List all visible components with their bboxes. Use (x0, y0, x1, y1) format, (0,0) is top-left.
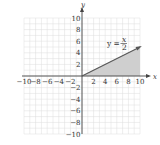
equation-denominator: 2 (122, 43, 127, 52)
y-tick-label: −8 (70, 119, 80, 127)
equation-left: y = (106, 39, 120, 48)
graph: −10−8−6−4−2246810108642−2−4−6−8−10 x y y… (0, 0, 160, 145)
y-tick-label: 10 (72, 15, 81, 23)
y-tick-label: 6 (76, 38, 81, 46)
x-tick-label: −4 (54, 78, 65, 86)
x-tick-label: 6 (115, 78, 120, 86)
y-tick-label: −10 (66, 131, 81, 139)
y-tick-label: −6 (70, 107, 81, 115)
y-tick-label: −2 (70, 84, 80, 92)
x-tick-label: −8 (30, 78, 40, 86)
x-tick-label: −10 (17, 78, 32, 86)
y-tick-label: 8 (76, 26, 80, 34)
equation-label: y = x 2 (106, 35, 127, 52)
x-axis-label: x (153, 73, 157, 81)
x-tick-label: −6 (42, 78, 53, 86)
y-tick-label: −4 (70, 96, 81, 104)
x-tick-label: 10 (136, 78, 145, 86)
x-tick-label: 8 (126, 78, 130, 86)
y-tick-label: 2 (76, 61, 80, 69)
y-tick-label: 4 (76, 49, 81, 57)
x-tick-label: 4 (103, 78, 108, 86)
x-tick-label: 2 (91, 78, 95, 86)
y-axis-label: y (80, 1, 86, 9)
